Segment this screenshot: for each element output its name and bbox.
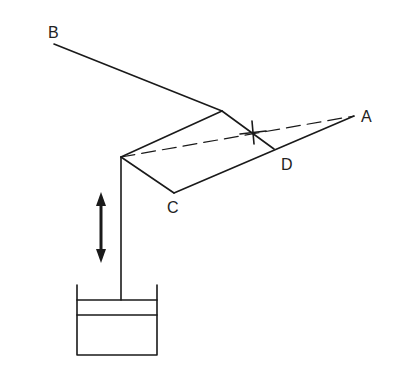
label-D: D <box>281 156 293 173</box>
label-B: B <box>48 24 59 41</box>
link-C-A <box>174 116 354 193</box>
label-A: A <box>361 108 372 125</box>
linkage-diagram: B A C D <box>0 0 402 376</box>
link-B <box>54 44 222 111</box>
label-C: C <box>167 199 179 216</box>
link-joint-D <box>222 111 274 149</box>
link-pivot-C <box>121 157 174 193</box>
link-top <box>121 111 222 157</box>
cylinder-body <box>77 285 157 355</box>
motion-arrow-icon <box>96 192 106 263</box>
